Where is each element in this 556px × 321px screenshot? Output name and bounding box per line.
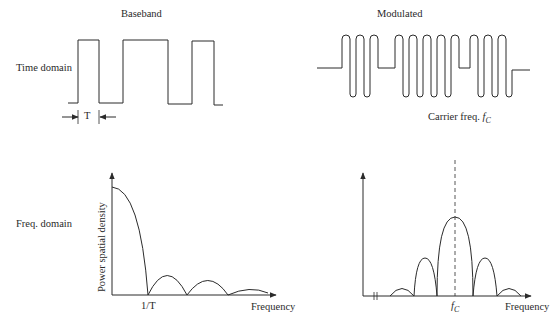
period-label: T xyxy=(84,110,90,121)
freq-domain-label: Freq. domain xyxy=(16,218,72,229)
baseband-title: Baseband xyxy=(121,8,162,19)
modulated-title: Modulated xyxy=(377,8,423,19)
diagram-canvas xyxy=(0,0,556,321)
fc-subscript: C xyxy=(454,305,459,314)
y-axis-label: Power spatial density xyxy=(96,202,107,292)
carrier-subscript: C xyxy=(485,116,490,125)
baseband-psd-curve xyxy=(112,187,268,295)
baseband-psd-axes xyxy=(112,173,276,295)
modulated-waveform xyxy=(317,35,530,97)
tick-label-1-over-T: 1/T xyxy=(141,300,156,311)
modulated-psd-axes xyxy=(363,160,531,300)
x-axis-label-baseband: Frequency xyxy=(251,301,295,312)
baseband-waveform xyxy=(68,40,223,105)
time-domain-label: Time domain xyxy=(16,62,72,73)
x-axis-label-modulated: Frequency xyxy=(505,301,549,312)
tick-label-fc: fC xyxy=(451,300,459,314)
modulated-psd-curve xyxy=(390,217,521,296)
carrier-freq-text: Carrier freq. xyxy=(428,111,483,122)
carrier-freq-label: Carrier freq. fC xyxy=(428,111,491,125)
